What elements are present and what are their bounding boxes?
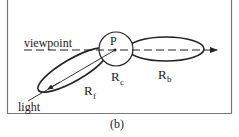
backward-lobe-rb: [128, 37, 204, 61]
svg-text:c: c: [120, 77, 124, 87]
figure-caption: (b): [110, 117, 124, 131]
rf-label: R f: [84, 83, 96, 101]
point-p-label: P: [110, 34, 117, 48]
rc-label: R c: [111, 69, 124, 87]
svg-text:b: b: [167, 74, 172, 84]
viewpoint-label: viewpoint: [24, 36, 73, 50]
reflection-lobes-diagram: viewpoint P R c R b R f light (b): [0, 0, 239, 137]
svg-text:f: f: [93, 91, 96, 101]
point-p-dot: [114, 49, 117, 52]
light-label: light: [18, 100, 41, 114]
svg-text:R: R: [84, 83, 93, 98]
svg-text:R: R: [158, 67, 167, 82]
light-arrow: [48, 82, 60, 89]
svg-text:R: R: [111, 69, 120, 84]
rb-label: R b: [158, 67, 172, 84]
